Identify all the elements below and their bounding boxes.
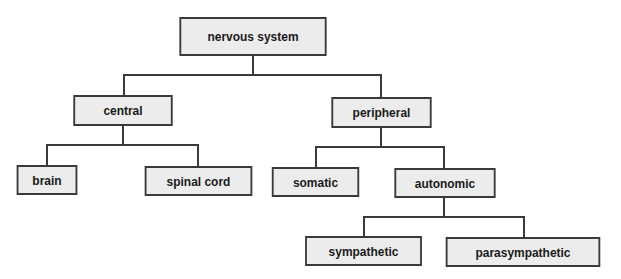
connector — [123, 74, 125, 96]
connector — [523, 216, 525, 238]
connector — [315, 146, 317, 168]
node-brain: brain — [17, 165, 78, 195]
connector — [252, 55, 254, 75]
node-spinal-cord: spinal cord — [145, 166, 253, 196]
node-nervous-system: nervous system — [179, 17, 326, 56]
node-somatic: somatic — [272, 167, 359, 197]
connector — [380, 74, 382, 98]
node-central: central — [73, 95, 172, 126]
connector — [363, 216, 365, 237]
connector — [380, 127, 382, 147]
connector — [122, 125, 124, 145]
node-sympathetic: sympathetic — [305, 236, 422, 266]
connector — [363, 216, 525, 218]
connector — [123, 74, 382, 76]
connector — [315, 146, 445, 148]
connector — [46, 144, 48, 166]
connector — [197, 144, 199, 167]
connector — [46, 144, 199, 146]
connector — [443, 197, 445, 217]
node-autonomic: autonomic — [394, 168, 495, 198]
node-parasympathetic: parasympathetic — [446, 237, 601, 267]
nervous-system-tree-diagram: nervous system central peripheral brain … — [0, 0, 621, 279]
connector — [443, 146, 445, 169]
node-peripheral: peripheral — [331, 97, 431, 128]
